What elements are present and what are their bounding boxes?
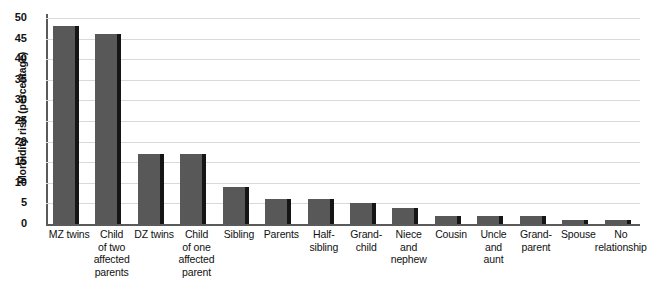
bar xyxy=(520,216,546,224)
bar xyxy=(95,34,121,224)
bar-group xyxy=(387,18,429,224)
y-tick-label-15: 15 xyxy=(0,155,27,167)
x-tick-label-line: nephew xyxy=(382,253,436,266)
y-tick-label-25: 25 xyxy=(0,114,27,126)
x-tick-label-line: aunt xyxy=(467,253,521,266)
y-tick-label-30: 30 xyxy=(0,93,27,105)
bar xyxy=(562,220,588,224)
bar-group xyxy=(218,18,260,224)
x-axis-tick-labels: MZ twinsChildof twoaffectedparentsDZ twi… xyxy=(46,228,640,292)
x-tick-label-line: parent xyxy=(509,241,563,254)
x-tick-label-line: of one xyxy=(170,241,224,254)
x-tick-label: Norelationship xyxy=(585,228,655,253)
bar-group xyxy=(515,18,557,224)
bar-group xyxy=(345,18,387,224)
x-tick-label-line: parent xyxy=(170,266,224,279)
plot-area: 05101520253035404550 xyxy=(46,18,640,224)
bar xyxy=(435,216,461,224)
bar xyxy=(605,220,631,224)
y-tick-label-5: 5 xyxy=(0,196,27,208)
x-tick-label-line: relationship xyxy=(585,241,655,254)
bar-group xyxy=(175,18,217,224)
x-tick-label-line: No xyxy=(585,228,655,241)
x-tick-label-line: of two xyxy=(85,241,139,254)
bar-group xyxy=(90,18,132,224)
y-tick-label-50: 50 xyxy=(0,11,27,23)
y-tick-label-45: 45 xyxy=(0,32,27,44)
y-tick-label-35: 35 xyxy=(0,73,27,85)
bar-group xyxy=(48,18,90,224)
bar xyxy=(53,26,79,224)
bar xyxy=(308,199,334,224)
gridline-0 xyxy=(46,224,640,226)
bar xyxy=(350,203,376,224)
bar-group xyxy=(133,18,175,224)
y-tick-label-0: 0 xyxy=(0,217,27,229)
bar xyxy=(180,154,206,224)
bar xyxy=(392,208,418,224)
x-tick-label-line: and xyxy=(382,241,436,254)
x-tick-label-line: affected xyxy=(85,253,139,266)
bar-group xyxy=(557,18,599,224)
bar xyxy=(477,216,503,224)
x-tick-label-line: parents xyxy=(85,266,139,279)
y-tick-label-10: 10 xyxy=(0,176,27,188)
bar-group xyxy=(600,18,642,224)
x-tick-label-line: affected xyxy=(170,253,224,266)
bars xyxy=(46,18,640,224)
y-tick-label-40: 40 xyxy=(0,52,27,64)
morbidity-risk-bar-chart: Morbidity risk (percentage) 051015202530… xyxy=(0,0,655,292)
bar xyxy=(223,187,249,224)
bar xyxy=(138,154,164,224)
bar-group xyxy=(303,18,345,224)
bar xyxy=(265,199,291,224)
bar-group xyxy=(430,18,472,224)
bar-group xyxy=(472,18,514,224)
y-tick-label-20: 20 xyxy=(0,135,27,147)
bar-group xyxy=(260,18,302,224)
